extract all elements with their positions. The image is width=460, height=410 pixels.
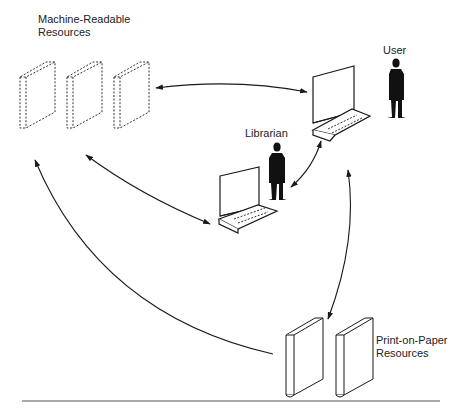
librarian-person-icon [268,143,287,201]
dashed-book-icon [20,62,55,128]
user-person-icon [387,59,406,119]
arrow-machine-to-user-terminal [156,84,307,92]
print-on-paper-resources [286,318,373,397]
arrow-librarian-to-user-terminal [291,141,321,187]
book-icon [286,318,323,397]
dashed-book-icon [67,62,102,128]
machine-readable-resources [20,62,149,128]
arrow-machine-to-librarian-terminal [86,155,210,224]
dashed-book-icon [114,62,149,128]
book-icon [336,318,373,397]
library-resources-diagram [0,0,460,410]
arrow-print-to-user-terminal [328,170,351,319]
user-terminal-icon [313,66,370,141]
